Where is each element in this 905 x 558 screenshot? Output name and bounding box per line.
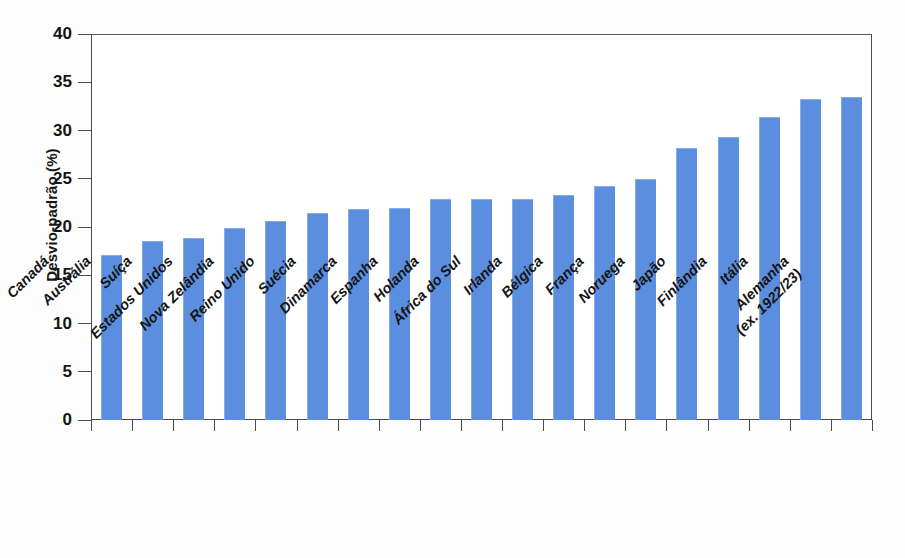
y-tick-label: 35 xyxy=(30,72,72,92)
bar-slot xyxy=(831,34,872,420)
y-tick-label: 30 xyxy=(30,121,72,141)
x-tick-mark xyxy=(872,420,873,431)
bar-slot xyxy=(790,34,831,420)
y-tick-mark xyxy=(78,130,91,131)
y-tick-label: 40 xyxy=(30,24,72,44)
y-tick-mark xyxy=(78,227,91,228)
y-tick-mark xyxy=(78,82,91,83)
bar[interactable] xyxy=(841,97,862,420)
bar[interactable] xyxy=(800,99,821,420)
y-tick-label: 25 xyxy=(30,169,72,189)
y-tick-mark xyxy=(78,34,91,35)
y-tick-mark xyxy=(78,323,91,324)
bar-slot xyxy=(749,34,790,420)
x-tick-mark xyxy=(790,420,791,431)
x-tick-mark xyxy=(749,420,750,431)
bar-chart: Desvio-padrão (%) 0510152025303540 Canad… xyxy=(0,0,905,558)
x-tick-mark xyxy=(831,420,832,431)
x-tick-mark xyxy=(666,420,667,431)
y-tick-label: 20 xyxy=(30,217,72,237)
x-tick-mark xyxy=(708,420,709,431)
y-tick-mark xyxy=(78,178,91,179)
